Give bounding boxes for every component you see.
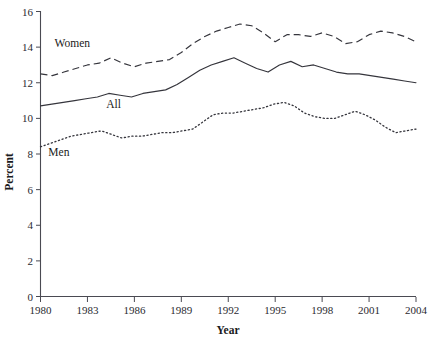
x-tick-label-1995: 1995 [264,304,287,316]
series-label-men: Men [48,146,69,158]
y-tick-label-16: 16 [22,6,34,18]
y-tick-label-0: 0 [28,291,34,303]
x-axis-title: Year [217,324,240,336]
y-axis: 0246810121416 [22,6,41,303]
y-tick-label-8: 8 [28,148,34,160]
x-axis: 198019831986198919921995199820012004 [30,297,428,316]
x-tick-label-1986: 1986 [123,304,146,316]
line-chart: 0246810121416 19801983198619891992199519… [0,0,429,344]
y-tick-label-2: 2 [28,255,34,267]
y-tick-label-12: 12 [22,77,33,89]
x-tick-label-2004: 2004 [405,304,428,316]
x-tick-label-1998: 1998 [311,304,334,316]
x-tick-label-2001: 2001 [358,304,380,316]
y-axis-title: Percent [3,153,15,191]
series-line-all [41,58,417,106]
chart-container: 0246810121416 19801983198619891992199519… [0,0,429,344]
series-line-women [41,24,417,76]
y-tick-label-14: 14 [22,41,34,53]
x-tick-label-1989: 1989 [170,304,193,316]
series-line-men [41,102,417,147]
series-label-women: Women [55,37,91,49]
data-series-group [41,24,417,147]
y-tick-label-6: 6 [28,184,34,196]
y-tick-label-4: 4 [28,219,34,231]
series-label-all: All [106,98,121,110]
x-tick-label-1980: 1980 [30,304,53,316]
x-tick-label-1992: 1992 [217,304,239,316]
y-tick-label-10: 10 [22,112,34,124]
x-tick-label-1983: 1983 [76,304,99,316]
